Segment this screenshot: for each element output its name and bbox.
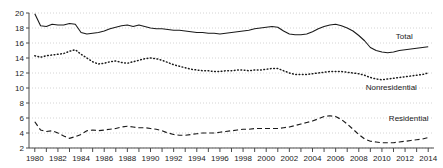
x-tick-label: 1982 [49,154,67,163]
x-tick-label: 2010 [373,154,391,163]
x-tick-label: 2012 [396,154,414,163]
y-tick-label: 2 [20,144,25,153]
x-tick-label: 1992 [165,154,183,163]
y-tick-label: 18 [15,24,24,33]
y-tick-label: 14 [15,54,24,63]
x-tick-label: 1996 [211,154,229,163]
chart-container: 2468101214161820 19801982198419861988199… [0,0,443,168]
series-line-residential [35,116,428,143]
x-tick-label: 1990 [142,154,160,163]
x-tick-label: 2014 [419,154,437,163]
y-tick-label: 8 [20,99,25,108]
x-tick-label: 2000 [257,154,275,163]
x-tick-label: 1986 [95,154,113,163]
x-axis-tick-labels: 1980198219841986198819901992199419961998… [26,154,438,163]
x-tick-label: 1988 [118,154,136,163]
x-tick-label: 2002 [280,154,298,163]
x-tick-label: 1980 [26,154,44,163]
series-label-total: Total [396,32,413,41]
y-tick-label: 20 [15,9,24,18]
series-line-total [35,14,428,53]
y-tick-label: 6 [20,114,25,123]
y-tick-label: 12 [15,69,24,78]
line-chart: 2468101214161820 19801982198419861988199… [0,0,443,168]
x-axis-ticks [35,148,428,152]
y-tick-label: 16 [15,39,24,48]
data-series-group [35,14,428,143]
y-tick-label: 10 [15,84,24,93]
x-tick-label: 2004 [304,154,322,163]
x-tick-label: 2008 [350,154,368,163]
x-tick-label: 1998 [234,154,252,163]
x-tick-label: 2006 [327,154,345,163]
x-tick-label: 1994 [188,154,206,163]
series-line-nonresidential [35,50,428,80]
y-axis-tick-labels: 2468101214161820 [15,9,24,153]
x-tick-label: 1984 [72,154,90,163]
series-label-residential: Residential [389,114,429,123]
series-label-nonresidential: Nonresidential [366,83,417,92]
y-tick-label: 4 [20,129,25,138]
